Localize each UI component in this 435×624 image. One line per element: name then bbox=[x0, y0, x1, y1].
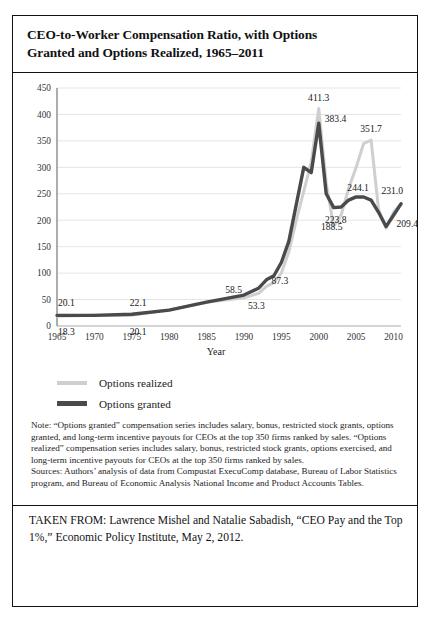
svg-text:1970: 1970 bbox=[85, 332, 104, 342]
legend-swatch-options-realized bbox=[57, 381, 87, 385]
figure-title: CEO-to-Worker Compensation Ratio, with O… bbox=[27, 26, 399, 61]
notes-block: Note: “Options granted” compensation ser… bbox=[31, 420, 401, 490]
svg-text:450: 450 bbox=[37, 83, 51, 93]
figure-container: CEO-to-Worker Compensation Ratio, with O… bbox=[12, 15, 418, 607]
taken-from-text: TAKEN FROM: Lawrence Mishel and Natalie … bbox=[29, 513, 403, 546]
line-chart-svg: 0501001502002503003504004501965197019751… bbox=[13, 74, 419, 364]
svg-text:87.3: 87.3 bbox=[271, 275, 288, 286]
svg-text:383.4: 383.4 bbox=[325, 113, 347, 124]
svg-text:58.5: 58.5 bbox=[225, 284, 242, 295]
svg-text:209.4: 209.4 bbox=[397, 218, 419, 229]
svg-text:53.3: 53.3 bbox=[248, 300, 265, 311]
svg-text:1990: 1990 bbox=[235, 332, 254, 342]
svg-text:244.1: 244.1 bbox=[347, 182, 369, 193]
legend-item-options-granted: Options granted bbox=[57, 393, 397, 414]
svg-text:20.1: 20.1 bbox=[130, 326, 147, 337]
svg-text:20.1: 20.1 bbox=[58, 297, 75, 308]
svg-text:188.5: 188.5 bbox=[321, 221, 343, 232]
chart-area: 0501001502002503003504004501965197019751… bbox=[13, 74, 419, 364]
legend-item-options-realized: Options realized bbox=[57, 372, 397, 393]
svg-text:2005: 2005 bbox=[347, 332, 366, 342]
svg-text:231.0: 231.0 bbox=[381, 185, 403, 196]
svg-text:1980: 1980 bbox=[160, 332, 179, 342]
figure-title-line-2: Granted and Options Realized, 1965–2011 bbox=[27, 44, 399, 62]
svg-text:1995: 1995 bbox=[272, 332, 291, 342]
note-text: Note: “Options granted” compensation ser… bbox=[31, 420, 401, 466]
legend-label-options-realized: Options realized bbox=[99, 377, 173, 389]
svg-text:0: 0 bbox=[46, 321, 51, 331]
svg-text:100: 100 bbox=[37, 268, 51, 278]
svg-text:2000: 2000 bbox=[309, 332, 328, 342]
legend-swatch-options-granted bbox=[57, 401, 87, 406]
svg-text:150: 150 bbox=[37, 242, 51, 252]
svg-text:350: 350 bbox=[37, 136, 51, 146]
chart-legend: Options realized Options granted bbox=[57, 372, 397, 414]
svg-text:22.1: 22.1 bbox=[130, 297, 147, 308]
svg-text:250: 250 bbox=[37, 189, 51, 199]
svg-text:300: 300 bbox=[37, 163, 51, 173]
svg-text:200: 200 bbox=[37, 216, 51, 226]
svg-text:50: 50 bbox=[42, 295, 52, 305]
svg-text:18.3: 18.3 bbox=[58, 326, 75, 337]
svg-text:400: 400 bbox=[37, 110, 51, 120]
svg-text:1985: 1985 bbox=[197, 332, 216, 342]
svg-text:411.3: 411.3 bbox=[308, 92, 329, 103]
svg-text:351.7: 351.7 bbox=[360, 123, 382, 134]
figure-title-line-1: CEO-to-Worker Compensation Ratio, with O… bbox=[27, 26, 399, 44]
bottom-divider bbox=[13, 505, 417, 506]
svg-text:2010: 2010 bbox=[384, 332, 403, 342]
sources-text: Sources: Authors’ analysis of data from … bbox=[31, 466, 401, 489]
x-axis-title: Year bbox=[13, 346, 419, 357]
legend-label-options-granted: Options granted bbox=[99, 398, 171, 410]
